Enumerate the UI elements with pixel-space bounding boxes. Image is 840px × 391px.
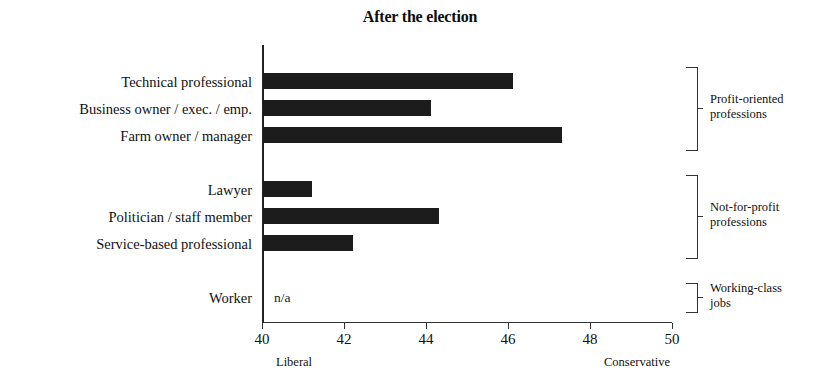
group-label-line: professions: [710, 107, 784, 122]
category-axis-labels: Technical professionalBusiness owner / e…: [0, 45, 252, 322]
x-axis-line: [262, 322, 672, 323]
axis-pole-right-label: Conservative: [604, 355, 670, 370]
group-bracket-nub: [697, 297, 703, 298]
group-label-line: professions: [710, 215, 779, 230]
missing-value-label: n/a: [274, 290, 291, 306]
category-label: Politician / staff member: [4, 209, 252, 225]
group-label-line: jobs: [710, 296, 782, 311]
chart-title: After the election: [0, 8, 840, 26]
bar-chart: After the election Technical professiona…: [0, 0, 840, 391]
category-label: Lawyer: [4, 182, 252, 198]
group-brackets: Profit-orientedprofessionsNot-for-profit…: [686, 45, 840, 345]
group-label-line: Profit-oriented: [710, 92, 784, 107]
x-tick-label: 42: [337, 331, 352, 348]
category-label: Farm owner / manager: [4, 128, 252, 144]
x-tick: [262, 323, 263, 329]
group-label: Not-for-profitprofessions: [710, 200, 779, 230]
group-label-line: Not-for-profit: [710, 200, 779, 215]
x-tick: [590, 323, 591, 329]
group-label: Profit-orientedprofessions: [710, 92, 784, 122]
x-tick-label: 46: [501, 331, 516, 348]
bar: [263, 100, 431, 116]
x-tick: [344, 323, 345, 329]
bar: [263, 127, 562, 143]
group-label-line: Working-class: [710, 281, 782, 296]
x-tick: [508, 323, 509, 329]
category-label: Technical professional: [4, 74, 252, 90]
bar: [263, 181, 312, 197]
bar: [263, 235, 353, 251]
group-label: Working-classjobs: [710, 281, 782, 311]
x-tick: [426, 323, 427, 329]
category-label: Business owner / exec. / emp.: [4, 101, 252, 117]
group-bracket-nub: [697, 108, 703, 109]
plot-area: 404244464850 n/a Liberal Conservative: [262, 45, 672, 322]
x-tick: [672, 323, 673, 329]
axis-pole-left-label: Liberal: [276, 355, 312, 370]
category-label: Service-based professional: [4, 236, 252, 252]
x-tick-label: 50: [665, 331, 680, 348]
category-label: Worker: [4, 290, 252, 306]
x-tick-label: 44: [419, 331, 434, 348]
x-tick-label: 48: [583, 331, 598, 348]
bar: [263, 73, 513, 89]
group-bracket-nub: [697, 216, 703, 217]
bar: [263, 208, 439, 224]
x-tick-label: 40: [255, 331, 270, 348]
